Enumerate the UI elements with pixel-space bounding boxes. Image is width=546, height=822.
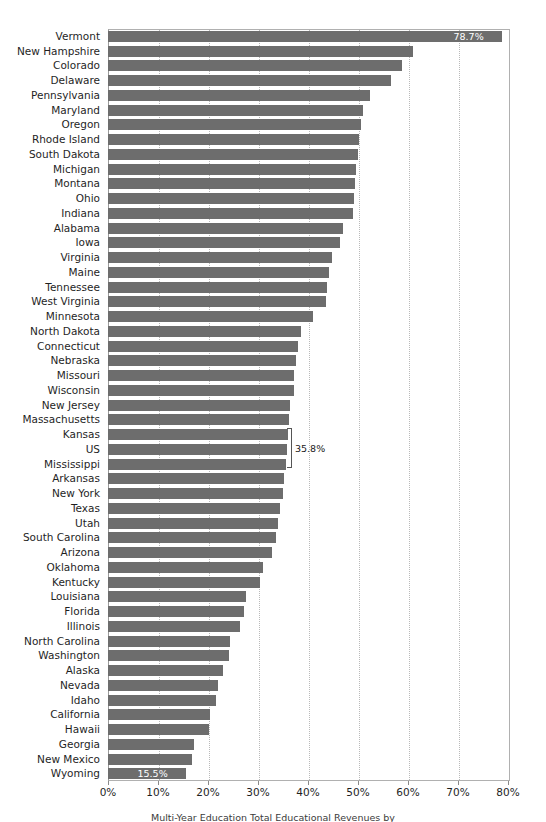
bar (108, 75, 391, 86)
bar (108, 296, 326, 307)
bar-row (108, 88, 510, 103)
x-tick-mark (358, 781, 359, 785)
category-label: Oklahoma (0, 560, 104, 575)
x-tick-label: 30% (246, 786, 269, 798)
bar (108, 636, 230, 647)
bar-row (108, 103, 510, 118)
bar (108, 621, 240, 632)
bars-layer: 78.7%35.8%15.5% (108, 29, 510, 781)
bar (108, 695, 216, 706)
bar (108, 46, 413, 57)
x-axis: 0%10%20%30%40%50%60%70%80% (108, 781, 510, 807)
bar-row (108, 678, 510, 693)
bar-row (108, 693, 510, 708)
bar-row (108, 545, 510, 560)
bar (108, 267, 329, 278)
category-label: Alabama (0, 221, 104, 236)
bar-row (108, 501, 510, 516)
x-tick-label: 80% (496, 786, 519, 798)
category-label: Idaho (0, 693, 104, 708)
bar-value-label: 35.8% (295, 443, 325, 454)
bar-row (108, 707, 510, 722)
bar (108, 355, 296, 366)
bar-row (108, 132, 510, 147)
bar (108, 459, 286, 470)
bar-row (108, 575, 510, 590)
bar-row (108, 471, 510, 486)
bar (108, 282, 327, 293)
bar (108, 532, 276, 543)
footer-caption: Multi-Year Education Total Educational R… (0, 812, 546, 822)
bar (108, 164, 356, 175)
x-tick-label: 20% (196, 786, 219, 798)
bar (108, 754, 192, 765)
bar-row (108, 486, 510, 501)
bar-row (108, 265, 510, 280)
category-label: North Dakota (0, 324, 104, 339)
bar-row (108, 73, 510, 88)
category-label: Florida (0, 604, 104, 619)
x-tick-mark (158, 781, 159, 785)
category-label: Iowa (0, 235, 104, 250)
category-label: Mississippi (0, 457, 104, 472)
bar-row (108, 221, 510, 236)
bar (108, 414, 289, 425)
bar-row (108, 44, 510, 59)
category-label: Louisiana (0, 589, 104, 604)
category-label: Nevada (0, 678, 104, 693)
bar-row (108, 309, 510, 324)
category-label: Michigan (0, 162, 104, 177)
bar-row (108, 604, 510, 619)
category-label: Maine (0, 265, 104, 280)
bar-row (108, 368, 510, 383)
category-label: Texas (0, 501, 104, 516)
x-tick-mark (258, 781, 259, 785)
category-label: Connecticut (0, 339, 104, 354)
category-label: US (0, 442, 104, 457)
category-label: Tennessee (0, 280, 104, 295)
bar-row (108, 457, 510, 472)
category-label: Montana (0, 176, 104, 191)
x-tick-label: 10% (146, 786, 169, 798)
bar-row: 78.7% (108, 29, 510, 44)
category-label: Nebraska (0, 353, 104, 368)
bar (108, 606, 244, 617)
bar (108, 680, 218, 691)
bar-value-label: 15.5% (138, 768, 168, 779)
bar (108, 60, 402, 71)
bar-row (108, 634, 510, 649)
category-label: Maryland (0, 103, 104, 118)
category-label: Minnesota (0, 309, 104, 324)
bar-value-label: 78.7% (454, 31, 484, 42)
bar (108, 444, 287, 455)
bar (108, 178, 355, 189)
bar-row (108, 516, 510, 531)
bar-row (108, 191, 510, 206)
category-label: Arkansas (0, 471, 104, 486)
bar-row (108, 589, 510, 604)
category-label: South Carolina (0, 530, 104, 545)
bar (108, 208, 353, 219)
bar (108, 724, 209, 735)
category-label: Kentucky (0, 575, 104, 590)
category-label: Rhode Island (0, 132, 104, 147)
bar (108, 370, 294, 381)
category-label: Kansas (0, 427, 104, 442)
bar (108, 591, 246, 602)
bar-row (108, 162, 510, 177)
bar-row (108, 619, 510, 634)
x-tick-mark (208, 781, 209, 785)
category-label: Arizona (0, 545, 104, 560)
bar-chart: VermontNew HampshireColoradoDelawarePenn… (0, 0, 546, 822)
category-label: South Dakota (0, 147, 104, 162)
bar (108, 119, 361, 130)
bar-row (108, 560, 510, 575)
bar-row (108, 176, 510, 191)
bar (108, 400, 290, 411)
bar (108, 149, 358, 160)
x-tick-label: 0% (100, 786, 117, 798)
category-label: West Virginia (0, 294, 104, 309)
bar-row (108, 353, 510, 368)
bar-row (108, 58, 510, 73)
bar (108, 31, 502, 42)
